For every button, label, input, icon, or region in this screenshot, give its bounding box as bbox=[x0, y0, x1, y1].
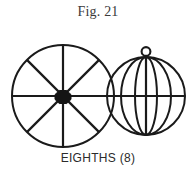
eighths-diagram bbox=[0, 24, 196, 152]
figure-container: Fig. 21 EIGHTHS (8) bbox=[0, 0, 196, 173]
sphere-top-ring-icon bbox=[142, 47, 151, 56]
figure-title: Fig. 21 bbox=[0, 3, 196, 21]
figure-caption: EIGHTHS (8) bbox=[0, 150, 196, 166]
spoked-wheel-group bbox=[12, 45, 114, 147]
wheel-hub-icon bbox=[55, 91, 71, 104]
segmented-sphere-group bbox=[107, 47, 185, 135]
